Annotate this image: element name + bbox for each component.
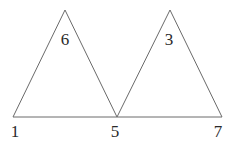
base-label-left: 1	[11, 122, 20, 141]
right-triangle	[117, 10, 222, 117]
base-label-middle: 5	[111, 122, 120, 141]
left-triangle	[13, 10, 117, 117]
triangle-diagram: 6 3 1 5 7	[0, 0, 233, 147]
base-label-right: 7	[214, 122, 223, 141]
diagram-svg: 6 3 1 5 7	[0, 0, 233, 147]
apex-label-right: 3	[165, 30, 174, 49]
apex-label-left: 6	[61, 30, 70, 49]
